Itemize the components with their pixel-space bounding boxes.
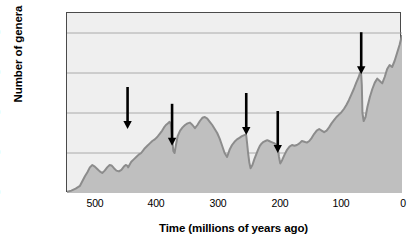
x-axis-title: Time (millions of years ago) xyxy=(66,222,401,234)
x-tick-label-200: 200 xyxy=(260,197,300,209)
ordovician-extinction-arrow-head xyxy=(123,121,131,129)
diversity-area xyxy=(67,35,402,193)
permian-extinction-arrow-head xyxy=(242,127,250,135)
y-axis-title: Number of genera xyxy=(12,0,24,124)
x-tick-label-300: 300 xyxy=(198,197,238,209)
x-tick-label-100: 100 xyxy=(321,197,361,209)
plot-svg xyxy=(67,13,402,193)
x-tick-label-400: 400 xyxy=(136,197,176,209)
diversity-through-time-chart: Number of genera 4,000 3,000 2,000 1,000… xyxy=(0,0,418,247)
x-tick-label-0: 0 xyxy=(383,197,418,209)
plot-area xyxy=(66,12,401,192)
x-tick-label-500: 500 xyxy=(75,197,115,209)
